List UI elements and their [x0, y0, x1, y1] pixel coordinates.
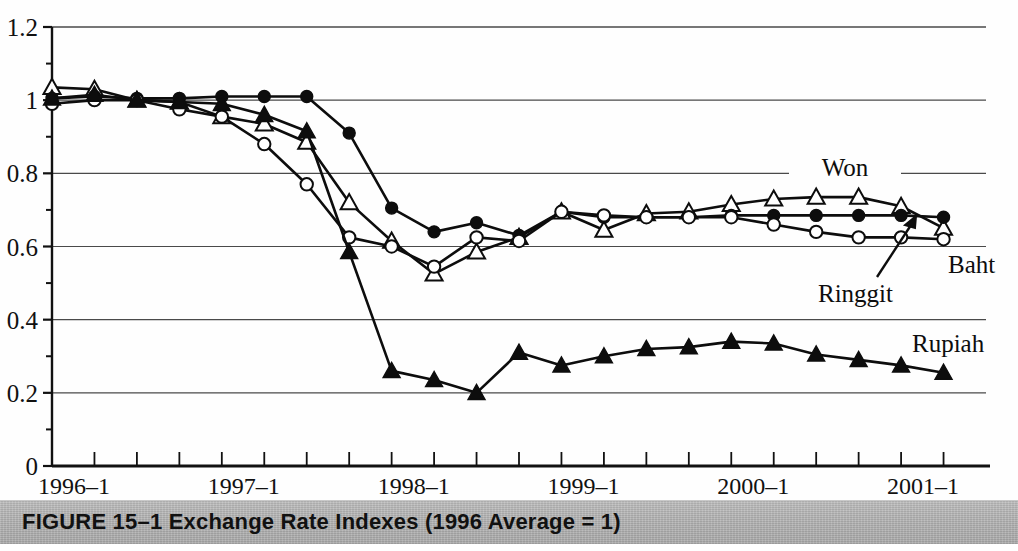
annotation-rupiah: Rupiah: [912, 330, 985, 357]
y-axis-tick-label: 0: [26, 453, 39, 480]
series-baht-marker: [428, 260, 440, 272]
series-baht-marker: [470, 231, 482, 243]
series-line-baht: [52, 100, 944, 266]
series-ringgit-marker: [428, 226, 440, 238]
series-baht-marker: [683, 211, 695, 223]
series-ringgit-marker: [258, 91, 270, 103]
x-axis-tick-label: 1996–1: [38, 473, 110, 498]
ringgit-leader-line: [877, 222, 913, 277]
x-axis: 1996–11997–11998–11999–12000–12001–1: [38, 452, 990, 498]
series-annotations: WonBahtRinggitRupiah: [789, 154, 995, 357]
series-ringgit-marker: [810, 209, 822, 221]
series-baht-marker: [258, 138, 270, 150]
series-baht-marker: [216, 110, 228, 122]
y-axis-tick-label: 1: [26, 87, 39, 114]
series-baht-marker: [598, 209, 610, 221]
series-baht-marker: [513, 235, 525, 247]
series-baht-marker: [385, 240, 397, 252]
series-baht-marker: [810, 226, 822, 238]
series-baht-marker: [640, 211, 652, 223]
annotation-ringgit: Ringgit: [818, 280, 893, 307]
series-baht-marker: [555, 206, 567, 218]
series-ringgit-marker: [301, 91, 313, 103]
series-baht-marker: [301, 178, 313, 190]
x-axis-tick-label: 1997–1: [208, 473, 280, 498]
chart-plot-area: 00.20.40.60.811.2 1996–11997–11998–11999…: [0, 0, 1018, 498]
y-axis-tick-label: 0.6: [7, 234, 38, 261]
x-axis-tick-label: 1999–1: [547, 473, 619, 498]
page-bottom-edge: [0, 544, 1018, 551]
series-ringgit-marker: [938, 211, 950, 223]
figure-container: 00.20.40.60.811.2 1996–11997–11998–11999…: [0, 0, 1018, 551]
series-ringgit-marker: [471, 217, 483, 229]
series-rupiah-marker: [341, 243, 358, 258]
y-axis-tick-label: 0.4: [7, 307, 39, 334]
x-axis-tick-label: 1998–1: [378, 473, 450, 498]
series-baht-marker: [768, 218, 780, 230]
gridlines: [52, 27, 986, 393]
figure-caption: FIGURE 15–1 Exchange Rate Indexes (1996 …: [22, 509, 621, 535]
y-axis-tick-label: 0.2: [7, 380, 38, 407]
series-baht-marker: [937, 233, 949, 245]
exchange-rate-line-chart: 00.20.40.60.811.2 1996–11997–11998–11999…: [0, 0, 1018, 498]
data-series-group: [44, 79, 953, 400]
y-axis-tick-label: 1.2: [7, 14, 38, 41]
x-axis-tick-label: 2000–1: [717, 473, 789, 498]
annotation-baht: Baht: [948, 251, 995, 278]
series-rupiah-marker: [383, 362, 400, 377]
series-ringgit-marker: [853, 209, 865, 221]
y-axis-tick-label: 0.8: [7, 160, 38, 187]
series-baht-marker: [852, 231, 864, 243]
series-rupiah-marker: [511, 344, 528, 359]
series-baht-marker: [725, 211, 737, 223]
figure-caption-band: FIGURE 15–1 Exchange Rate Indexes (1996 …: [0, 500, 1018, 545]
series-ringgit-marker: [343, 127, 355, 139]
x-axis-tick-label: 2001–1: [887, 473, 959, 498]
series-rupiah: [44, 86, 953, 399]
annotation-won: Won: [822, 154, 869, 181]
series-ringgit-marker: [895, 209, 907, 221]
y-axis: 00.20.40.60.811.2: [7, 14, 52, 480]
series-ringgit-marker: [386, 202, 398, 214]
